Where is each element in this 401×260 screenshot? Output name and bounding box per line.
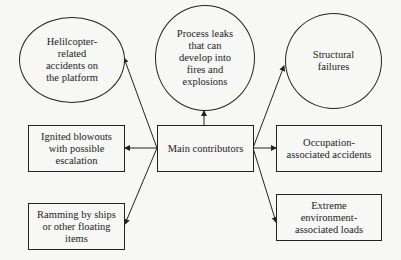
node-label: Ramming by ships or other floating items bbox=[33, 209, 120, 245]
node-label: Structural failures bbox=[309, 49, 358, 73]
arrow-to-ramming bbox=[125, 148, 157, 224]
arrow-to-helicopter bbox=[124, 58, 157, 148]
node-label: Helilcopter- related accidents on the pl… bbox=[42, 36, 102, 84]
node-label: Ignited blowouts with possible escalatio… bbox=[37, 131, 116, 167]
node-process-leaks: Process leaks that can develop into fire… bbox=[155, 5, 255, 111]
node-structural-failures: Structural failures bbox=[285, 13, 382, 109]
node-main-contributors: Main contributors bbox=[157, 125, 254, 172]
node-label: Occupation- associated accidents bbox=[283, 137, 376, 161]
arrow-to-extreme bbox=[253, 148, 276, 222]
node-ignited-blowouts: Ignited blowouts with possible escalatio… bbox=[28, 125, 125, 172]
node-occupation-accidents: Occupation- associated accidents bbox=[276, 125, 382, 172]
node-extreme-environment-loads: Extreme environment- associated loads bbox=[276, 194, 382, 241]
node-ramming: Ramming by ships or other floating items bbox=[28, 203, 125, 250]
node-helicopter-accidents: Helilcopter- related accidents on the pl… bbox=[19, 17, 125, 103]
node-label: Process leaks that can develop into fire… bbox=[173, 28, 237, 88]
center-label: Main contributors bbox=[164, 143, 248, 155]
node-label: Extreme environment- associated loads bbox=[291, 200, 367, 236]
